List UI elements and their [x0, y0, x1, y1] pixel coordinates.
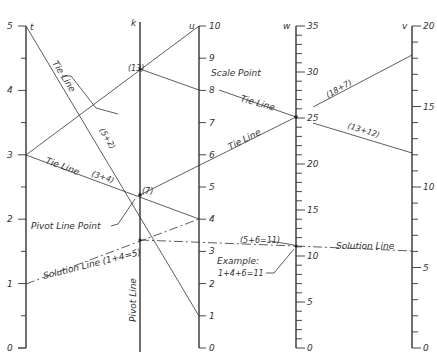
pivot-line-point-label: Pivot Line Point	[31, 221, 101, 231]
example-equation: 1+4+6=11	[218, 269, 264, 278]
tie-line-label-2: Tie Line	[44, 155, 81, 177]
tick-label-w: 25	[307, 113, 319, 123]
tick-label-u: 1	[209, 311, 215, 321]
tick-label-v: 15	[423, 102, 435, 112]
tie-line-k7-w25	[140, 117, 296, 195]
tick-label-w: 30	[307, 67, 319, 77]
scale-point-label: Scale Point	[211, 68, 261, 78]
label-5-6-11: (5+6=11)	[240, 236, 280, 245]
tick-label-v: 5	[423, 263, 429, 273]
tick-label-t: 1	[7, 279, 13, 289]
tick-label-u: 9	[209, 53, 215, 63]
tie-line-label-4: Tie Line	[226, 127, 262, 152]
axis-w: 05101520253035	[296, 21, 319, 353]
tick-label-t: 4	[7, 85, 13, 95]
point-k5	[139, 239, 142, 242]
tick-label-t: 5	[7, 21, 13, 31]
label-k7: (7)	[142, 187, 153, 196]
tick-label-u: 2	[209, 279, 215, 289]
axis-v: 05101520	[412, 21, 435, 353]
tick-label-u: 10	[209, 21, 221, 31]
tick-label-u: 4	[209, 214, 215, 224]
tie-line-t3-u10	[26, 26, 199, 155]
tick-label-t: 3	[7, 150, 13, 160]
tick-label-w: 10	[307, 251, 319, 261]
tick-label-w: 15	[307, 205, 319, 215]
solution-line-right-label: Solution Line	[336, 241, 395, 251]
tick-label-u: 3	[209, 246, 215, 256]
label-18-7: (18+7)	[325, 78, 354, 100]
point-w25	[294, 115, 298, 119]
tick-label-t: 2	[7, 214, 13, 224]
label-13-12: (13+12)	[346, 121, 380, 139]
solution-line-left-label: Solution Line (1+4=5)	[42, 247, 142, 281]
axis-label-k: k	[131, 18, 137, 28]
pivot-line-label: Pivot Line	[128, 278, 138, 322]
axis-label-v: v	[402, 21, 408, 31]
axis-label-t: t	[30, 22, 34, 32]
tick-label-v: 0	[423, 343, 429, 353]
tick-label-t: 0	[7, 343, 13, 353]
point-k7	[138, 193, 142, 197]
nomograph: 012345 012345678910 05101520253035 05101…	[0, 0, 437, 356]
tick-label-u: 8	[209, 85, 215, 95]
axis-t: 012345	[7, 21, 26, 353]
tick-label-v: 10	[423, 182, 435, 192]
label-5-2: (5+2)	[97, 126, 117, 150]
example-leader	[266, 249, 294, 273]
point-k13	[139, 68, 142, 71]
tie-line-k13-u8	[140, 69, 199, 90]
axis-label-w: w	[283, 21, 291, 31]
tick-label-w: 35	[307, 21, 319, 31]
label-k13: (13)	[128, 64, 144, 73]
tick-label-u: 0	[209, 343, 215, 353]
tick-label-u: 7	[209, 118, 215, 128]
tick-label-u: 5	[209, 182, 215, 192]
tick-label-w: 0	[307, 343, 313, 353]
label-3-4: (3+4)	[90, 169, 115, 185]
tick-label-v: 20	[423, 21, 435, 31]
point-w11	[295, 245, 298, 248]
example-title: Example:	[217, 256, 259, 266]
tick-label-w: 5	[307, 297, 313, 307]
tick-label-w: 20	[307, 159, 319, 169]
tie-line-label-3: Tie Line	[239, 93, 276, 112]
